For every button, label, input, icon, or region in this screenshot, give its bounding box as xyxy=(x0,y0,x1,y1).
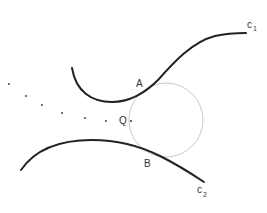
curve-c1 xyxy=(72,33,246,102)
label-c2: c xyxy=(197,184,202,195)
curve-c2 xyxy=(21,140,204,182)
label-c1: c xyxy=(247,19,252,30)
label-b: B xyxy=(144,158,151,169)
medial-axis-diagram: A B Q c 1 c 2 xyxy=(0,0,267,213)
label-q: Q xyxy=(119,115,127,126)
point-q-dot xyxy=(130,120,132,122)
label-c1-subscript: 1 xyxy=(253,25,257,32)
label-c2-subscript: 2 xyxy=(203,191,207,198)
label-a: A xyxy=(136,78,143,89)
